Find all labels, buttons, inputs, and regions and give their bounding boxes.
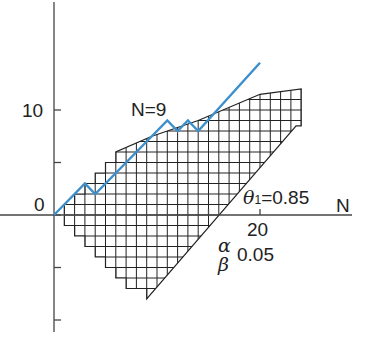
- annotation-beta: β: [218, 255, 229, 274]
- annotation-n9: N=9: [131, 100, 166, 119]
- x-tick-label-20: 20: [247, 220, 268, 239]
- sequential-test-chart: [0, 0, 379, 340]
- y-tick-label-0: 0: [34, 195, 45, 214]
- theta-symbol: θ: [243, 186, 254, 208]
- annotation-alpha-beta-value: 0.05: [237, 245, 274, 264]
- x-axis-label: N: [336, 196, 350, 215]
- annotation-theta: θ1=0.85: [243, 188, 309, 207]
- theta-value: =0.85: [261, 187, 309, 208]
- y-tick-label-10: 10: [22, 101, 43, 120]
